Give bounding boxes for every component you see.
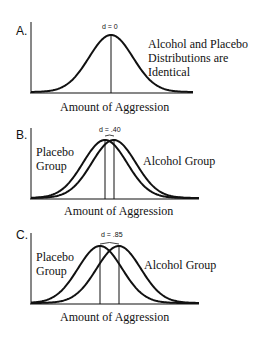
x-axis-label: Amount of Aggression (60, 310, 169, 325)
placebo-group-label: Placebo Group (36, 250, 74, 278)
panel-c-plot (0, 0, 260, 338)
effect-size-label: d = .85 (101, 231, 123, 238)
panel-c: C. d = .85 Placebo Group Alcohol Group A… (0, 0, 260, 338)
alcohol-group-label: Alcohol Group (144, 258, 216, 272)
panel-c-label: C. (16, 228, 28, 242)
